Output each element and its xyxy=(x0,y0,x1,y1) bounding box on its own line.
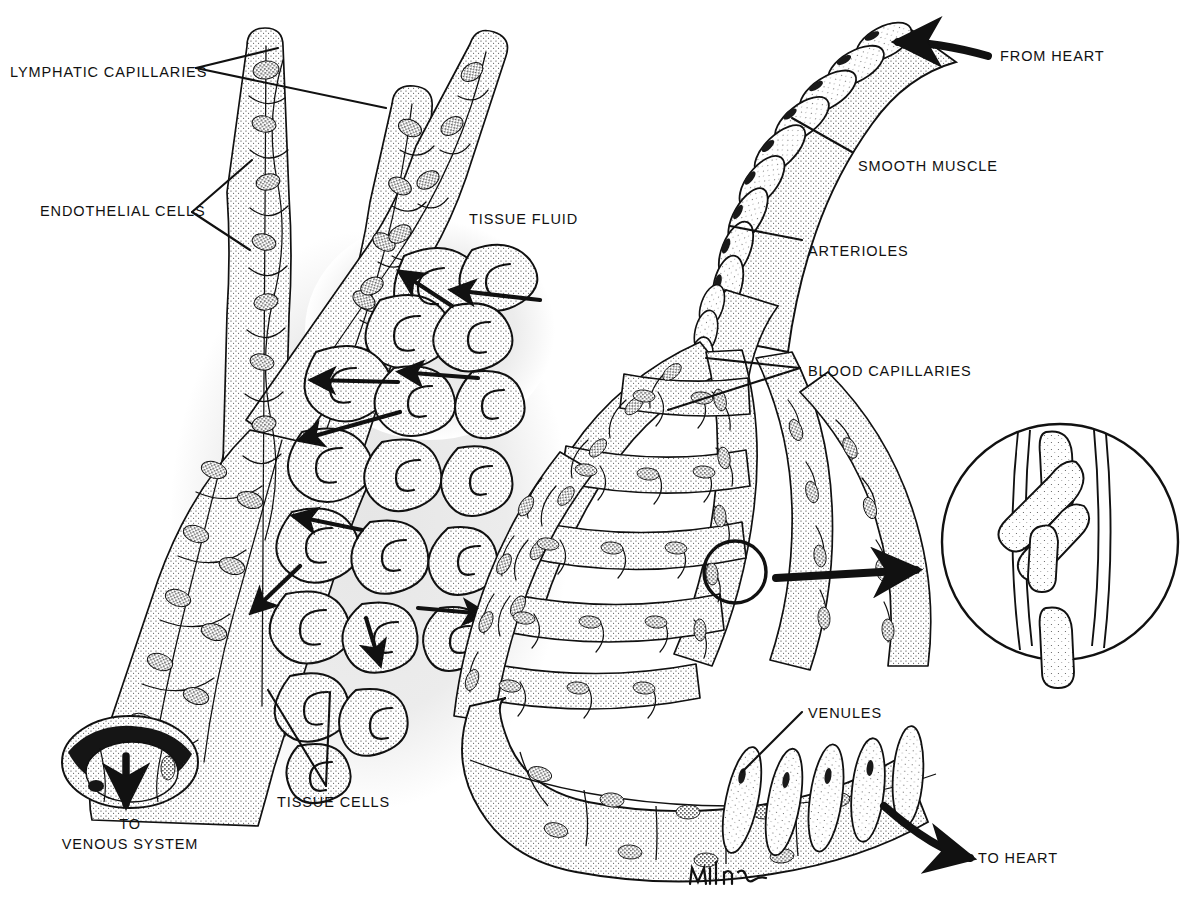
label-tissue-fluid: TISSUE FLUID xyxy=(469,211,578,227)
lymphatic-vessel-cut-end xyxy=(62,716,198,808)
label-lymphatic-capillaries: LYMPHATIC CAPILLARIES xyxy=(10,64,207,80)
label-smooth-muscle: SMOOTH MUSCLE xyxy=(858,158,998,174)
to-venous-system-line2: VENOUS SYSTEM xyxy=(62,836,199,852)
label-to-heart: TO HEART xyxy=(978,850,1058,866)
to-venous-system-line1: TO xyxy=(119,816,141,832)
label-endothelial-cells: ENDOTHELIAL CELLS xyxy=(40,203,205,219)
label-blood-capillaries: BLOOD CAPILLARIES xyxy=(808,363,972,379)
figure-canvas: LYMPHATIC CAPILLARIES ENDOTHELIAL CELLS … xyxy=(0,0,1184,908)
label-venules: VENULES xyxy=(808,705,882,721)
label-to-venous-system: TO VENOUS SYSTEM xyxy=(60,815,200,854)
anatomical-illustration xyxy=(0,0,1184,908)
label-tissue-cells: TISSUE CELLS xyxy=(277,794,390,810)
label-from-heart: FROM HEART xyxy=(1000,48,1105,64)
label-arterioles: ARTERIOLES xyxy=(808,243,909,259)
